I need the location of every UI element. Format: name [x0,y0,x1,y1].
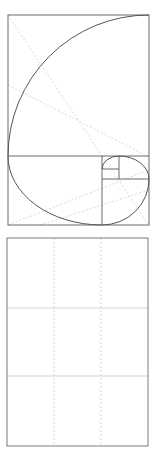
rule-of-thirds-horizontal-guides [7,308,148,376]
rule-of-thirds-vertical-guides [54,238,101,446]
rule-of-thirds-frame [7,238,148,446]
composition-guides-canvas [0,0,160,461]
golden-spiral-diagram [8,15,149,225]
golden-spiral-guide-diagonals [8,15,149,225]
rule-of-thirds-diagram [7,238,148,446]
